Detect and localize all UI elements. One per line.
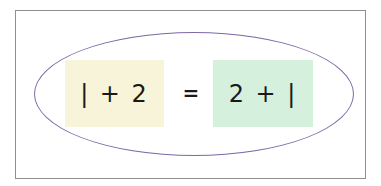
right-expression-box: 2 + | <box>213 60 313 127</box>
left-expression: | + 2 <box>80 80 149 108</box>
equals-sign: = <box>176 78 206 108</box>
right-expression: 2 + | <box>229 80 298 108</box>
left-expression-box: | + 2 <box>65 60 164 127</box>
